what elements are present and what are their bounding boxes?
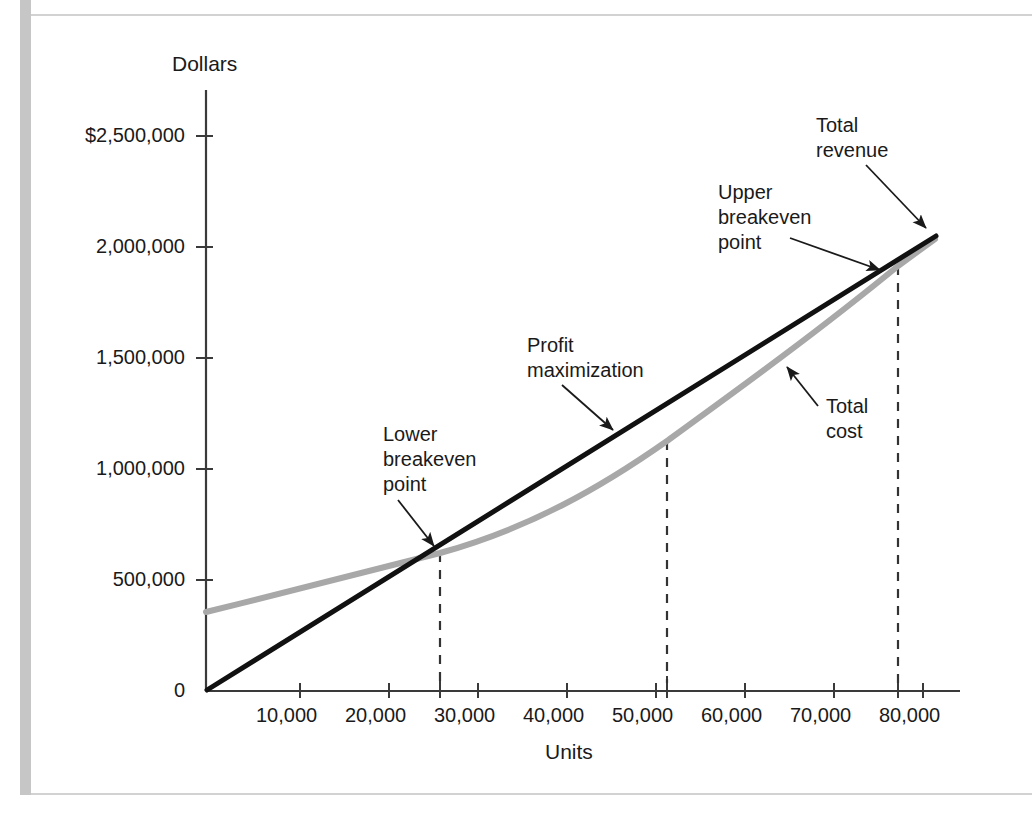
annotation-leaders xyxy=(398,165,926,546)
annotation-profit-maximization: Profit maximization xyxy=(527,333,644,383)
x-tick-40000: 40,000 xyxy=(523,704,584,727)
breakeven-chart: Dollars Units $2,500,000 2,000,000 1,500… xyxy=(0,0,1032,813)
x-tick-30000: 30,000 xyxy=(434,704,495,727)
x-tick-20000: 20,000 xyxy=(345,704,406,727)
x-tick-10000: 10,000 xyxy=(256,704,317,727)
annotation-total-cost: Total cost xyxy=(826,394,868,444)
x-axis-ticks xyxy=(300,676,923,698)
reference-droplines xyxy=(440,266,898,683)
x-tick-70000: 70,000 xyxy=(790,704,851,727)
leader-total-cost xyxy=(787,367,818,406)
y-tick-1000000: 1,000,000 xyxy=(45,457,185,480)
y-tick-0: 0 xyxy=(45,679,185,702)
x-axis-title: Units xyxy=(545,740,593,764)
axis-lines xyxy=(206,90,960,691)
x-tick-50000: 50,000 xyxy=(612,704,673,727)
leader-profit-maximization xyxy=(562,385,613,430)
y-axis-title: Dollars xyxy=(172,52,237,76)
x-tick-60000: 60,000 xyxy=(701,704,762,727)
y-axis-ticks xyxy=(196,136,213,580)
annotation-upper-breakeven-point: Upper breakeven point xyxy=(718,180,811,255)
y-tick-2500000: $2,500,000 xyxy=(45,124,185,147)
leader-total-revenue xyxy=(866,165,926,228)
y-tick-2000000: 2,000,000 xyxy=(45,235,185,258)
annotation-lower-breakeven-point: Lower breakeven point xyxy=(383,422,476,497)
total-revenue-line xyxy=(207,236,936,690)
page-canvas: Dollars Units $2,500,000 2,000,000 1,500… xyxy=(0,0,1032,813)
annotation-total-revenue: Total revenue xyxy=(816,113,888,163)
leader-lower-breakeven xyxy=(398,500,434,546)
x-tick-80000: 80,000 xyxy=(879,704,940,727)
y-tick-1500000: 1,500,000 xyxy=(45,346,185,369)
y-tick-500000: 500,000 xyxy=(45,568,185,591)
